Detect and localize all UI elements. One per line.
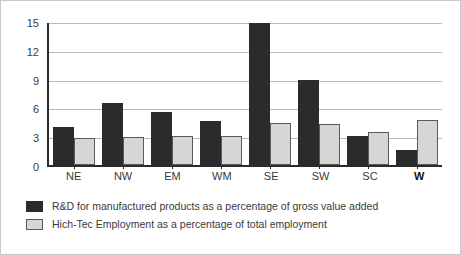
bar-group [98,23,147,165]
x-tick-mark [123,165,124,169]
x-axis-tick-labels: NENWEMWMSESWSCW [49,171,444,182]
bar [151,112,172,165]
y-tick-label: 9 [33,75,39,86]
bar-group [196,23,245,165]
bar-group [344,23,393,165]
bar [249,23,270,165]
y-tick-label: 12 [27,46,39,57]
y-tick-label: 0 [33,162,39,173]
x-tick-mark [221,165,222,169]
bar [53,127,74,165]
x-tick-mark [172,165,173,169]
plot-area: 03691215 [47,23,442,167]
bar [172,136,193,165]
bar [396,150,417,165]
x-tick-label-ne: NE [49,171,98,182]
legend-label: R&D for manufactured products as a perce… [52,201,378,212]
x-tick-label-se: SE [247,171,296,182]
bar [102,103,123,165]
legend-label: Hich-Tec Employment as a percentage of t… [52,219,327,230]
bar-group [147,23,196,165]
bar [417,120,438,165]
bar [270,123,291,165]
x-tick-label-nw: NW [98,171,147,182]
chart-figure: 03691215 NENWEMWMSESWSCW R&D for manufac… [0,0,461,255]
y-tick-label: 6 [33,104,39,115]
x-tick-label-wm: WM [197,171,246,182]
x-tick-mark [270,165,271,169]
legend-item: Hich-Tec Employment as a percentage of t… [26,215,378,233]
bar [347,136,368,165]
x-tick-label-em: EM [148,171,197,182]
x-tick-label-sc: SC [345,171,394,182]
x-tick-label-sw: SW [296,171,345,182]
y-tick-label: 15 [27,18,39,29]
bar [368,132,389,165]
legend-swatch-dark [26,201,43,212]
x-axis-line [47,165,442,167]
chart-legend: R&D for manufactured products as a perce… [26,197,378,233]
bar-group [393,23,442,165]
bar-groups [49,23,442,165]
legend-swatch-light [26,219,43,230]
bar [200,121,221,165]
legend-item: R&D for manufactured products as a perce… [26,197,378,215]
bar [319,124,340,165]
bar [74,138,95,165]
bar-group [295,23,344,165]
bar-group [246,23,295,165]
x-tick-mark [368,165,369,169]
bar-group [49,23,98,165]
x-tick-mark [74,165,75,169]
bar [123,137,144,165]
x-tick-label-w: W [395,171,444,182]
y-tick-label: 3 [33,133,39,144]
bar [221,136,242,165]
bar [298,80,319,165]
x-tick-mark [417,165,418,169]
x-tick-mark [319,165,320,169]
